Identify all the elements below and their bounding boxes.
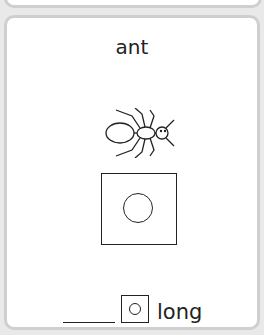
- word-card: ant long: [4, 15, 260, 330]
- answer-blank[interactable]: [63, 300, 115, 323]
- mini-circle-icon: [129, 303, 141, 315]
- answer-suffix: long: [157, 301, 202, 323]
- sound-box: [101, 173, 177, 245]
- circle-in-square-icon: [121, 295, 149, 323]
- previous-card: [4, 0, 262, 8]
- circle-icon: [123, 193, 153, 223]
- card-word: ant: [7, 35, 257, 59]
- ant-icon: [102, 108, 182, 158]
- answer-row: long: [63, 295, 202, 323]
